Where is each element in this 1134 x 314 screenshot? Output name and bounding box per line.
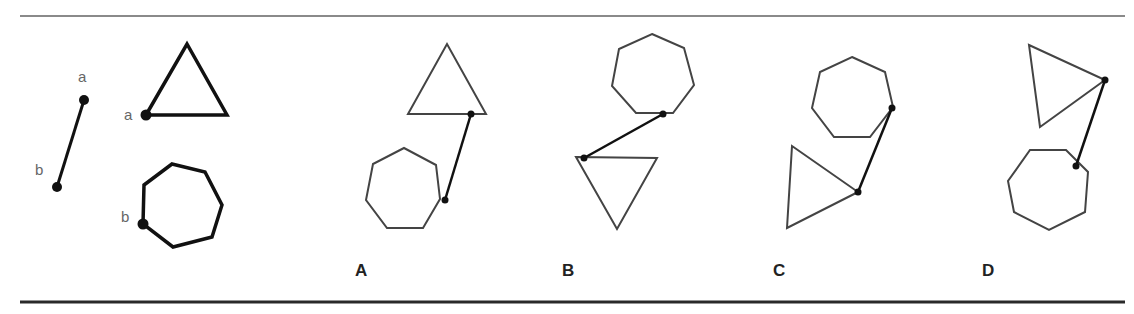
segment-label-b: b: [35, 161, 43, 178]
reference-shapes: abab: [35, 44, 227, 247]
option-label: B: [562, 261, 574, 280]
option-heptagon: [812, 57, 893, 137]
option-label: C: [773, 261, 785, 280]
option-joint-dot: [855, 189, 862, 196]
option-connecting-segment: [445, 114, 471, 200]
option-joint-dot: [442, 197, 449, 204]
triangle-vertex-a-dot: [141, 110, 152, 121]
heptagon-vertex-b-dot: [138, 219, 149, 230]
triangle-label-a: a: [124, 106, 133, 123]
option-b[interactable]: B: [562, 34, 694, 280]
option-triangle: [576, 157, 657, 229]
option-triangle: [408, 44, 486, 114]
reference-segment: [57, 100, 84, 187]
answer-options: ABCD: [355, 34, 1109, 280]
heptagon-label-b: b: [121, 208, 129, 225]
figure-stage: abab ABCD: [0, 0, 1134, 314]
option-label: A: [355, 261, 367, 280]
option-label: D: [982, 261, 994, 280]
reference-heptagon: [143, 164, 222, 247]
option-a[interactable]: A: [355, 44, 486, 280]
option-joint-dot: [889, 105, 896, 112]
option-joint-dot: [1102, 77, 1109, 84]
option-c[interactable]: C: [773, 57, 896, 280]
option-triangle: [787, 146, 858, 228]
option-connecting-segment: [584, 114, 663, 158]
option-heptagon: [612, 34, 694, 113]
option-d[interactable]: D: [982, 45, 1109, 280]
endpoint-a-dot: [79, 95, 89, 105]
option-heptagon: [366, 148, 440, 228]
segment-label-a: a: [78, 68, 87, 85]
option-connecting-segment: [1076, 80, 1105, 166]
option-heptagon: [1008, 150, 1088, 230]
option-joint-dot: [660, 111, 667, 118]
option-joint-dot: [468, 111, 475, 118]
diagram-canvas: abab ABCD: [0, 0, 1134, 314]
reference-triangle: [146, 44, 227, 115]
option-connecting-segment: [858, 108, 892, 192]
endpoint-b-dot: [52, 182, 62, 192]
horizontal-rules: [20, 16, 1125, 302]
option-joint-dot: [1073, 163, 1080, 170]
option-joint-dot: [581, 155, 588, 162]
